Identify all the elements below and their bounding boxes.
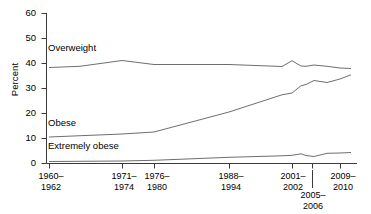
series-label-extremely-obese: Extremely obese	[48, 140, 119, 151]
x-tick-label-line1: 1988–	[218, 171, 243, 181]
series-line-obese	[49, 75, 351, 137]
chart-figure: Percent 60 50 40 30 20 10 0 1960– 1962 1…	[0, 0, 371, 214]
x-tick-label-2005-2006: 2005– 2006	[300, 190, 325, 211]
series-label-obese: Obese	[48, 117, 76, 128]
x-tick-label-line1: 1960–	[38, 171, 63, 181]
y-tick-label-30: 30	[14, 83, 36, 93]
series-line-extremely-obese	[49, 153, 351, 162]
x-tick-label-line2: 1980	[144, 182, 169, 193]
y-tick-label-50: 50	[14, 33, 36, 43]
x-tick-label-1976-1980: 1976– 1980	[144, 171, 169, 192]
x-tick-label-line1: 2001–	[280, 171, 305, 181]
y-tick-label-60: 60	[14, 8, 36, 18]
series-line-overweight	[49, 61, 351, 69]
x-tick-label-line2: 1974	[111, 182, 136, 193]
y-tick-label-0: 0	[14, 158, 36, 168]
x-tick-label-2009-2010: 2009– 2010	[330, 171, 355, 192]
x-tick-label-line1: 2009–	[330, 171, 355, 181]
y-axis-ticks	[42, 14, 47, 164]
x-tick-label-1960-1962: 1960– 1962	[38, 171, 63, 192]
x-tick-label-line1: 1971–	[111, 171, 136, 181]
x-tick-label-2001-2002: 2001– 2002	[280, 171, 305, 192]
x-tick-label-line2: 1994	[218, 182, 243, 193]
y-tick-label-20: 20	[14, 108, 36, 118]
x-tick-label-line1: 1976–	[144, 171, 169, 181]
y-tick-label-40: 40	[14, 58, 36, 68]
x-tick-label-line2: 2010	[330, 182, 355, 193]
y-tick-label-10: 10	[14, 133, 36, 143]
x-tick-label-line2: 1962	[38, 182, 63, 193]
x-axis-ticks	[50, 164, 341, 169]
x-tick-label-line2: 2006	[300, 201, 325, 212]
x-tick-label-line1: 2005–	[300, 190, 325, 200]
x-tick-label-1971-1974: 1971– 1974	[111, 171, 136, 192]
x-tick-label-1988-1994: 1988– 1994	[218, 171, 243, 192]
series-label-overweight: Overweight	[48, 42, 96, 53]
